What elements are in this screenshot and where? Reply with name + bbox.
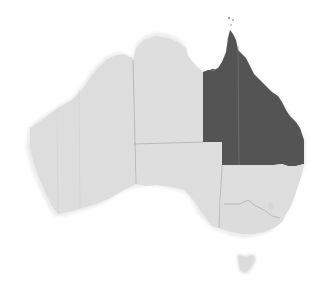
- region-northern-territory[interactable]: [133, 36, 203, 144]
- torres-islet: [232, 19, 234, 21]
- region-western-australia[interactable]: [30, 54, 136, 214]
- australia-map: Australia Queensland: [0, 0, 325, 282]
- region-tasmania-core: [238, 255, 254, 272]
- map-svg: [0, 0, 325, 282]
- torres-islet: [228, 17, 230, 19]
- gulf-islet: [211, 69, 216, 71]
- region-south-australia[interactable]: [134, 142, 222, 228]
- torres-islet: [230, 24, 231, 25]
